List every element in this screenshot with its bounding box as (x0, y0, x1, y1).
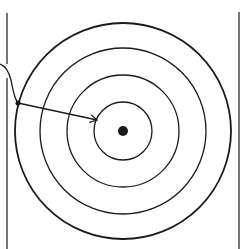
entry-curve-line (0, 64, 18, 103)
start-point-dot (16, 101, 21, 106)
direction-arrow (18, 103, 97, 120)
target-diagram (0, 0, 244, 249)
bullseye-center-dot (118, 126, 128, 136)
